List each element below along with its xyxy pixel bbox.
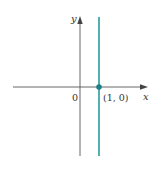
origin-label: 0 bbox=[72, 92, 78, 103]
point-label: (1, 0) bbox=[103, 92, 129, 103]
x-axis-label: x bbox=[143, 91, 149, 102]
point-1-0 bbox=[96, 84, 102, 90]
x-axis-arrow-icon bbox=[140, 84, 148, 89]
y-axis bbox=[77, 16, 82, 156]
y-axis-label: y bbox=[70, 13, 77, 24]
y-axis-arrow-icon bbox=[77, 16, 82, 24]
x-axis bbox=[13, 84, 148, 89]
vertical-line-graph: y x 0 (1, 0) bbox=[0, 0, 166, 171]
